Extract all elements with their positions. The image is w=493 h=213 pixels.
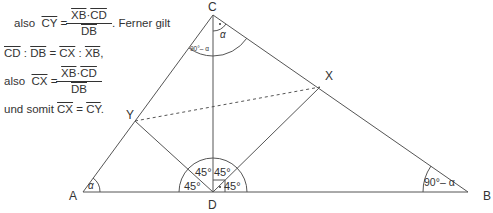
side-cb xyxy=(213,15,468,192)
triangle-diagram: C A B D X Y α α 90°– α 90°– α 45° 45° 45… xyxy=(0,0,493,213)
angle-arc-a xyxy=(93,178,100,192)
label-x: X xyxy=(325,69,333,83)
angle-arc-c-right xyxy=(213,38,247,56)
angle-label-d-1: 45° xyxy=(184,180,201,192)
right-angle-dot-c xyxy=(219,23,221,25)
angle-label-c-left: 90°– α xyxy=(190,45,209,52)
label-d: D xyxy=(208,198,217,212)
angle-label-d-4: 45° xyxy=(224,180,241,192)
angle-label-d-2: 45° xyxy=(195,166,212,178)
label-c: C xyxy=(208,0,217,14)
angle-label-alpha-c: α xyxy=(220,29,226,40)
label-b: B xyxy=(483,189,491,203)
angle-label-b: 90°– α xyxy=(424,176,455,188)
label-y: Y xyxy=(126,108,134,122)
angle-label-alpha-a: α xyxy=(88,180,94,191)
side-ac xyxy=(83,15,213,192)
segment-xy-dashed xyxy=(135,87,320,121)
label-a: A xyxy=(69,189,77,203)
segment-dy xyxy=(135,121,213,192)
angle-label-d-3: 45° xyxy=(214,166,231,178)
right-angle-dot-d xyxy=(219,186,221,188)
